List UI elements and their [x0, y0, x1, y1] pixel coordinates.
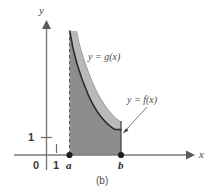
x-point-label-b: b: [118, 160, 124, 171]
point-marker-b: [118, 152, 124, 158]
x-axis-label: x: [199, 149, 204, 160]
x-point-label-a: a: [66, 160, 72, 171]
curve-label-f: y = f(x): [127, 95, 157, 105]
curve-label-g: y = g(x): [88, 52, 120, 62]
x-tick-label-0: 0: [33, 160, 39, 171]
y-tick-label-1: 1: [28, 132, 34, 143]
f-label-leader-line: [125, 107, 147, 131]
x-axis-arrowhead: [186, 151, 195, 160]
y-axis-label: y: [39, 5, 44, 16]
figure-panel: y x 1 0 1 a b y = g(x) y = f(x) (b): [0, 0, 215, 193]
y-axis-arrowhead: [42, 20, 51, 29]
point-marker-a: [66, 152, 72, 158]
f-label-arrowhead: [123, 128, 129, 133]
figure-caption: (b): [96, 176, 108, 186]
x-tick-label-1: 1: [53, 160, 59, 171]
